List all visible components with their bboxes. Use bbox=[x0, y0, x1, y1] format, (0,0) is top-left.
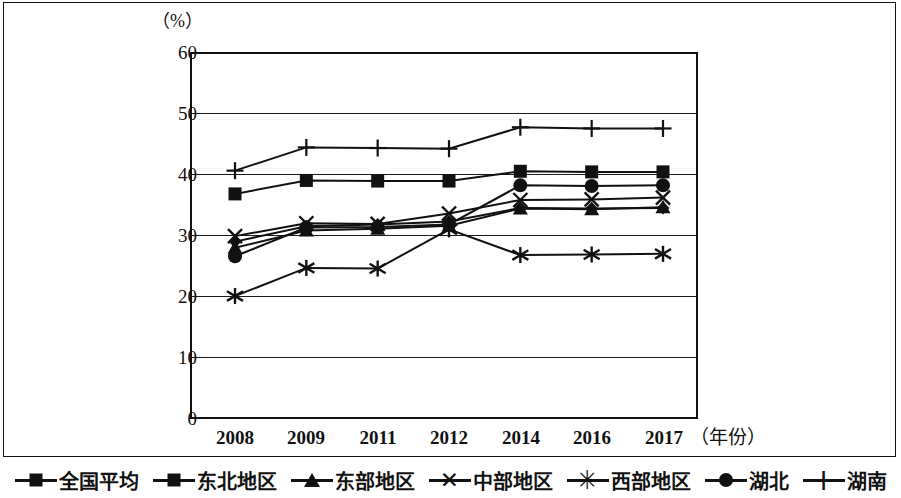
legend-item-quanguo[interactable]: 全国平均 bbox=[15, 466, 139, 495]
legend-label-quanguo: 全国平均 bbox=[59, 466, 139, 495]
plus-marker-icon: + bbox=[803, 469, 845, 491]
x-marker-icon: ✕ bbox=[429, 469, 471, 491]
circle-marker-icon bbox=[705, 469, 747, 491]
legend-item-xibu[interactable]: ✳ 西部地区 bbox=[567, 466, 691, 495]
legend-label-hunan: 湖南 bbox=[847, 466, 887, 495]
legend-item-dongbei[interactable]: 东北地区 bbox=[153, 466, 277, 495]
diamond-marker-icon bbox=[15, 469, 57, 491]
gridline-20 bbox=[190, 296, 698, 297]
legend-item-dongbu[interactable]: 东部地区 bbox=[291, 466, 415, 495]
x-axis-title: （年份） bbox=[690, 427, 766, 449]
star-marker-icon: ✳ bbox=[567, 469, 609, 491]
chart-legend: 全国平均 东北地区 东部地区 ✕ 中部地区 ✳ 西部地区 bbox=[0, 462, 901, 498]
gridline-40 bbox=[190, 174, 698, 175]
gridline-50 bbox=[190, 113, 698, 114]
y-tick-60: 60 bbox=[157, 43, 197, 62]
legend-item-zhongbu[interactable]: ✕ 中部地区 bbox=[429, 466, 553, 495]
gridline-10 bbox=[190, 357, 698, 358]
legend-label-zhongbu: 中部地区 bbox=[473, 466, 553, 495]
legend-label-xibu: 西部地区 bbox=[611, 466, 691, 495]
square-marker-icon bbox=[153, 469, 195, 491]
legend-item-hunan[interactable]: + 湖南 bbox=[803, 466, 887, 495]
legend-label-dongbu: 东部地区 bbox=[335, 466, 415, 495]
legend-item-hubei[interactable]: 湖北 bbox=[705, 466, 789, 495]
y-axis-unit-label: （%） bbox=[152, 6, 203, 32]
triangle-marker-icon bbox=[291, 469, 333, 491]
gridline-30 bbox=[190, 235, 698, 236]
legend-label-dongbei: 东北地区 bbox=[197, 466, 277, 495]
chart-figure: （%） 60 50 40 30 20 10 0 2008 2009 2011 2… bbox=[0, 0, 901, 498]
y-tick-0: 0 bbox=[157, 409, 197, 428]
legend-label-hubei: 湖北 bbox=[749, 466, 789, 495]
